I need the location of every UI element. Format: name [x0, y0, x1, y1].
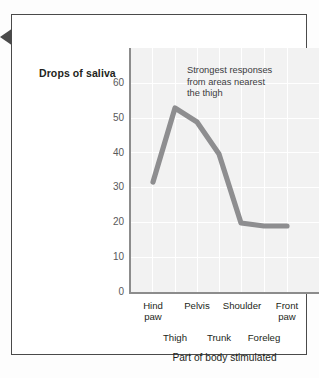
- y-tick-label-60: 60: [98, 78, 124, 88]
- annotation-line-2: from areas nearest: [187, 77, 299, 89]
- y-tick-label-30: 30: [98, 182, 124, 192]
- x-tick-label-hind-paw: Hind paw: [131, 300, 175, 322]
- x-tick-label-front-paw: Front paw: [265, 300, 309, 322]
- x-tick-label-foreleg: Foreleg: [241, 332, 287, 343]
- y-tick-label-40: 40: [98, 148, 124, 158]
- annotation-line-1: Strongest responses: [187, 65, 299, 77]
- x-tick-label-trunk: Trunk: [197, 332, 241, 343]
- x-axis-title: Part of body stimulated: [130, 352, 319, 363]
- series-polyline: [153, 108, 287, 226]
- y-tick-label-50: 50: [98, 113, 124, 123]
- x-tick-label-thigh: Thigh: [153, 332, 197, 343]
- figure-root: Drops of saliva 60 50 40 30 20 10 0: [0, 0, 319, 378]
- x-tick-label-shoulder: Shoulder: [219, 300, 265, 311]
- y-tick-label-10: 10: [98, 252, 124, 262]
- y-tick-label-20: 20: [98, 217, 124, 227]
- annotation-line-3: the thigh: [187, 88, 299, 100]
- x-tick-label-pelvis: Pelvis: [175, 300, 219, 311]
- figure-card: Drops of saliva 60 50 40 30 20 10 0: [11, 14, 307, 355]
- y-tick-label-0: 0: [98, 287, 124, 297]
- chart-annotation: Strongest responses from areas nearest t…: [187, 65, 299, 100]
